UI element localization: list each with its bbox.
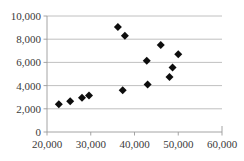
tick-marks bbox=[44, 16, 223, 136]
data-point-marker bbox=[78, 94, 86, 102]
chart-canvas: 02,0004,0006,0008,00010,000 20,00030,000… bbox=[0, 0, 244, 161]
data-point-marker bbox=[66, 97, 74, 105]
y-tick-label: 8,000 bbox=[16, 33, 41, 45]
y-tick-label: 4,000 bbox=[16, 80, 41, 92]
data-points bbox=[55, 23, 182, 108]
x-tick-label: 40,000 bbox=[119, 138, 150, 150]
gridlines bbox=[47, 16, 222, 109]
x-tick-label: 50,000 bbox=[163, 138, 194, 150]
data-point-marker bbox=[144, 80, 152, 88]
data-point-marker bbox=[55, 100, 63, 108]
x-tick-label: 60,000 bbox=[207, 138, 238, 150]
x-tick-label: 30,000 bbox=[76, 138, 107, 150]
data-point-marker bbox=[143, 57, 151, 65]
y-tick-label: 2,000 bbox=[16, 103, 41, 115]
scatter-chart: 02,0004,0006,0008,00010,000 20,00030,000… bbox=[0, 0, 244, 161]
y-tick-label: 10,000 bbox=[11, 10, 42, 22]
x-tick-label: 20,000 bbox=[32, 138, 63, 150]
data-point-marker bbox=[85, 91, 93, 99]
data-point-marker bbox=[119, 86, 127, 94]
x-axis-tick-labels: 20,00030,00040,00050,00060,000 bbox=[32, 138, 238, 150]
y-tick-label: 0 bbox=[36, 126, 42, 138]
data-point-marker bbox=[166, 73, 174, 81]
data-point-marker bbox=[114, 23, 122, 31]
data-point-marker bbox=[169, 64, 177, 72]
y-axis-tick-labels: 02,0004,0006,0008,00010,000 bbox=[11, 10, 42, 138]
data-point-marker bbox=[121, 32, 129, 40]
data-point-marker bbox=[157, 41, 165, 49]
data-point-marker bbox=[174, 50, 182, 58]
axes bbox=[47, 16, 222, 132]
y-tick-label: 6,000 bbox=[16, 56, 41, 68]
